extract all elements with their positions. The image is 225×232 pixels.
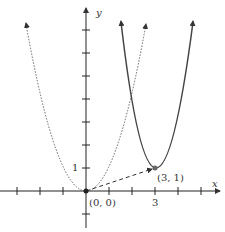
origin-label: (0, 0) (89, 197, 116, 208)
origin-point (84, 189, 89, 194)
translation-vector (86, 169, 152, 191)
vertex-label: (3, 1) (157, 172, 184, 183)
y-axis-label: y (95, 7, 102, 18)
y-tick-label: 1 (72, 162, 78, 173)
x-axis-label: x (212, 178, 218, 189)
x-axis (0, 187, 220, 195)
y-axis (82, 8, 90, 228)
vertex-point (153, 166, 158, 171)
parabola-translation-diagram: y x 3 1 (0, 0) (3, 1) (0, 0, 225, 232)
solid-parabola (121, 22, 193, 168)
x-tick-label: 3 (152, 197, 158, 208)
